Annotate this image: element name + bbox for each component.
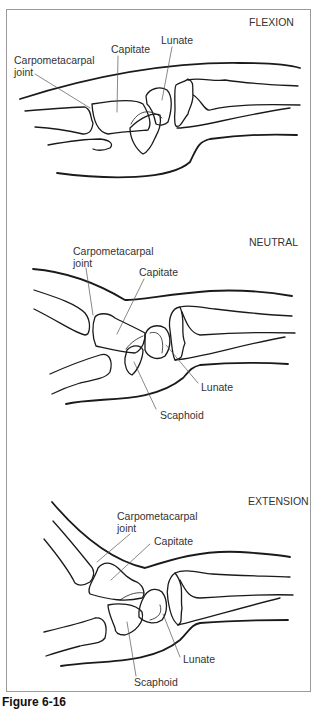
bone-capitate xyxy=(92,101,150,134)
label-lunate: Lunate xyxy=(183,653,215,665)
label-joint: joint xyxy=(13,66,33,78)
label-capitate: Capitate xyxy=(111,43,150,55)
panel-neutral: NEUTRAL Carpometacarpal joint Capitate L… xyxy=(33,236,298,421)
panel-flexion: FLEXION Carpometacarpal joint Capitate L… xyxy=(13,16,300,177)
metacarpal xyxy=(34,290,90,335)
label-lunate: Lunate xyxy=(161,34,193,46)
label-scaphoid: Scaphoid xyxy=(134,676,178,688)
panel-extension: EXTENSION Carpometacarpal joint Capitate… xyxy=(44,495,309,688)
label-lunate: Lunate xyxy=(201,381,233,393)
bone-ulna xyxy=(193,95,300,110)
label-carpometacarpal: Carpometacarpal xyxy=(73,245,154,257)
label-joint: joint xyxy=(72,257,92,269)
metacarpal xyxy=(25,107,93,134)
bone-capitate xyxy=(89,563,144,600)
label-capitate: Capitate xyxy=(154,535,193,547)
panel-title-neutral: NEUTRAL xyxy=(249,236,298,248)
bone-radius-head xyxy=(175,79,193,126)
bone-radius-shaft xyxy=(180,306,292,316)
panel-title-flexion: FLEXION xyxy=(249,16,294,28)
bone-ulna-lower xyxy=(175,337,285,360)
label-scaphoid: Scaphoid xyxy=(160,409,204,421)
bone-radius-shaft xyxy=(175,571,290,577)
metacarpal xyxy=(44,618,106,656)
metacarpal xyxy=(44,521,94,585)
bone-lunate xyxy=(145,326,170,359)
bone-scaphoid xyxy=(130,114,161,154)
skin-dorsal xyxy=(20,63,300,99)
bone-scaphoid xyxy=(125,346,143,375)
bone-ulna-lower xyxy=(177,108,290,128)
bone-scaphoid xyxy=(108,604,143,635)
bone-radius-shaft xyxy=(188,79,298,86)
label-joint: joint xyxy=(116,522,136,534)
skin-palmar xyxy=(66,363,288,404)
metacarpal xyxy=(50,354,111,394)
label-carpometacarpal: Carpometacarpal xyxy=(14,54,95,66)
skin-palmar xyxy=(57,135,297,178)
label-carpometacarpal: Carpometacarpal xyxy=(117,510,198,522)
bone-capitate xyxy=(93,314,145,353)
label-capitate: Capitate xyxy=(139,266,178,278)
panel-title-extension: EXTENSION xyxy=(248,495,309,507)
figure-caption: Figure 6-16 xyxy=(2,695,66,709)
bone-ulna xyxy=(180,580,293,598)
metacarpal xyxy=(48,139,112,150)
